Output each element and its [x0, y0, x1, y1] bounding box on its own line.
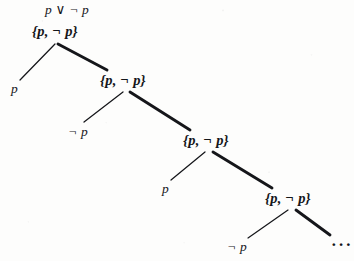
- tree-leaf: ¬ p: [68, 125, 88, 139]
- tree-node: {p, ¬ p}: [100, 73, 146, 88]
- tree-edge: [171, 152, 205, 180]
- tree-leaf: ¬ p: [227, 240, 247, 254]
- tree-node: {p, ¬ p}: [32, 24, 78, 39]
- tree-leaf: p: [162, 182, 169, 196]
- tree-node: {p, ¬ p}: [265, 191, 311, 206]
- figure-canvas: p ∨ ¬ p {p, ¬ p}{p, ¬ p}{p, ¬ p}{p, ¬ p}…: [0, 0, 354, 261]
- tree-edge: [58, 44, 107, 70]
- root-formula: p ∨ ¬ p: [45, 3, 89, 17]
- tree-edge: [248, 210, 288, 238]
- tree-edges-layer: [0, 0, 354, 261]
- tree-edge: [296, 210, 330, 235]
- tree-edge: [20, 44, 55, 80]
- tree-edge: [213, 152, 272, 188]
- tree-edge: [130, 92, 190, 130]
- tree-edge: [84, 92, 123, 122]
- continuation-ellipsis: ···: [331, 236, 353, 253]
- tree-node: {p, ¬ p}: [183, 133, 229, 148]
- tree-leaf: p: [11, 82, 18, 96]
